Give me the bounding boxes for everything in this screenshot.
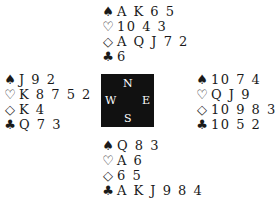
west-hearts: ♡K 8 7 5 2 (3, 87, 92, 102)
west-spades: ♠J 9 2 (3, 72, 92, 87)
club-icon: ♣ (195, 117, 209, 132)
spade-icon: ♠ (101, 4, 115, 19)
south-spades: ♠Q 8 3 (101, 138, 203, 153)
east-diamonds: ◇10 9 8 3 (195, 102, 277, 117)
east-hand: ♠10 7 4 ♡Q J 9 ◇10 9 8 3 ♣10 5 2 (195, 72, 277, 132)
club-icon: ♣ (101, 49, 115, 64)
spade-icon: ♠ (101, 138, 115, 153)
east-hearts: ♡Q J 9 (195, 87, 277, 102)
compass-south-label: S (124, 113, 132, 124)
west-hand: ♠J 9 2 ♡K 8 7 5 2 ◇K 4 ♣Q 7 3 (3, 72, 92, 132)
compass-west-label: W (105, 95, 116, 106)
west-clubs: ♣Q 7 3 (3, 117, 92, 132)
west-diamonds: ◇K 4 (3, 102, 92, 117)
south-diamonds: ◇6 5 (101, 168, 203, 183)
diamond-icon: ◇ (3, 102, 17, 117)
heart-icon: ♡ (101, 153, 115, 168)
club-icon: ♣ (101, 183, 115, 198)
diamond-icon: ◇ (101, 168, 115, 183)
north-spades: ♠A K 6 5 (101, 4, 189, 19)
south-hand: ♠Q 8 3 ♡A 6 ◇6 5 ♣A K J 9 8 4 (101, 138, 203, 198)
diamond-icon: ◇ (195, 102, 209, 117)
north-clubs: ♣6 (101, 49, 189, 64)
diamond-icon: ◇ (101, 34, 115, 49)
east-spades: ♠10 7 4 (195, 72, 277, 87)
heart-icon: ♡ (3, 87, 17, 102)
spade-icon: ♠ (3, 72, 17, 87)
east-clubs: ♣10 5 2 (195, 117, 277, 132)
spade-icon: ♠ (195, 72, 209, 87)
south-hearts: ♡A 6 (101, 153, 203, 168)
heart-icon: ♡ (101, 19, 115, 34)
north-hand: ♠A K 6 5 ♡10 4 3 ◇A Q J 7 2 ♣6 (101, 4, 189, 64)
north-hearts: ♡10 4 3 (101, 19, 189, 34)
compass-box: N W E S (101, 74, 154, 127)
north-diamonds: ◇A Q J 7 2 (101, 34, 189, 49)
compass-north-label: N (123, 78, 133, 89)
south-clubs: ♣A K J 9 8 4 (101, 183, 203, 198)
compass-east-label: E (142, 95, 150, 106)
club-icon: ♣ (3, 117, 17, 132)
heart-icon: ♡ (195, 87, 209, 102)
